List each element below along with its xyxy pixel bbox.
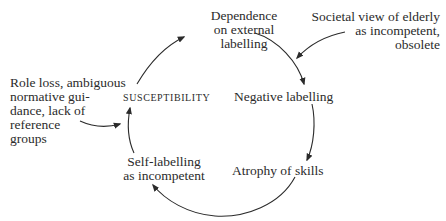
node-line: dance, lack of [10, 104, 135, 118]
node-role-loss: Role loss, ambiguous normative gui- danc… [10, 76, 135, 146]
node-label: Negative labelling [234, 89, 333, 104]
node-line: normative gui- [10, 90, 135, 104]
node-label: Susceptibility [123, 92, 210, 103]
node-line: reference [10, 118, 135, 132]
node-societal-view: Societal view of elderly as incompetent,… [292, 10, 440, 52]
node-line: groups [10, 132, 135, 146]
node-line: Role loss, ambiguous [10, 76, 135, 90]
node-susceptibility: Susceptibility [123, 91, 210, 105]
arrow-negative-labelling-to-atrophy [307, 104, 314, 160]
node-label: Atrophy of skills [232, 163, 324, 178]
node-dependence-on-external-labelling: Dependence on external labelling [196, 9, 292, 51]
node-line: as incompetent [118, 169, 210, 183]
arrow-susceptibility-to-dependence [137, 37, 184, 84]
social-breakdown-cycle-diagram: Dependence on external labelling Societa… [0, 0, 446, 221]
node-line: Societal view of elderly [292, 10, 440, 24]
node-line: as incompetent, [292, 24, 440, 38]
node-line: Dependence [196, 9, 292, 23]
node-self-labelling: Self-labelling as incompetent [118, 155, 210, 183]
node-line: obsolete [292, 38, 440, 52]
node-line: labelling [196, 37, 292, 51]
node-line: on external [196, 23, 292, 37]
node-atrophy-of-skills: Atrophy of skills [232, 164, 324, 178]
node-negative-labelling: Negative labelling [234, 90, 333, 104]
node-line: Self-labelling [118, 155, 210, 169]
